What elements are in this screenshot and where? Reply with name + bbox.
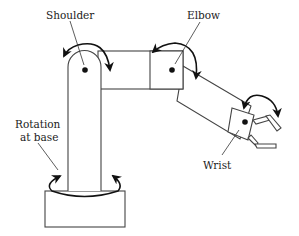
elbow-block — [150, 51, 183, 89]
rotation-label-line2: at base — [20, 131, 58, 143]
shoulder-label: Shoulder — [46, 9, 95, 21]
shoulder-joint-dot — [82, 67, 88, 73]
elbow-joint-dot — [169, 67, 175, 73]
rotation-label-line1: Rotation — [15, 118, 61, 130]
rotation-leader-line — [38, 143, 58, 170]
wrist-joint-dot — [242, 119, 248, 125]
robot-arm-diagram: Shoulder Elbow Wrist Rotation at base — [0, 0, 299, 236]
gripper — [248, 115, 281, 148]
elbow-label: Elbow — [187, 9, 220, 21]
wrist-label: Wrist — [203, 159, 232, 171]
